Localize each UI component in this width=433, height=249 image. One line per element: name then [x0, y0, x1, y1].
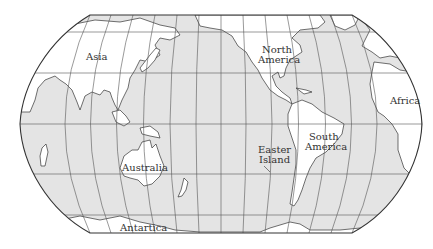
label-south-america-line2: America: [304, 141, 347, 152]
label-easter-island-line2: Island: [259, 154, 291, 165]
label-australia: Australia: [121, 162, 168, 173]
label-africa: Africa: [389, 95, 420, 106]
label-antarctica: Antartica: [119, 222, 167, 233]
label-north-america-line2: America: [257, 54, 300, 65]
world-map: Asia North America Africa Australia Sout…: [0, 0, 433, 249]
label-asia: Asia: [85, 51, 108, 62]
